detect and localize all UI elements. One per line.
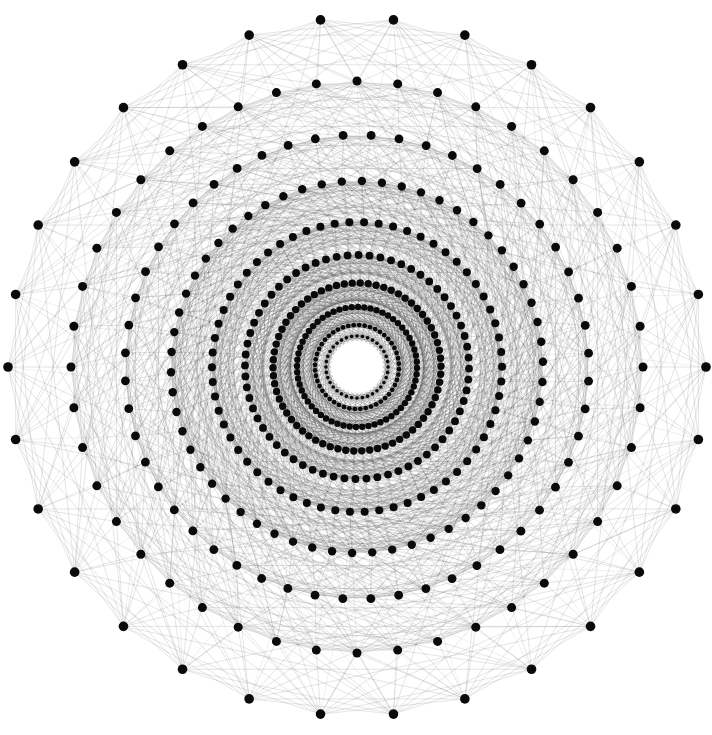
graph-node (415, 421, 422, 428)
graph-node (349, 279, 356, 286)
graph-node (507, 122, 516, 131)
graph-node (417, 493, 425, 501)
graph-node (540, 146, 549, 155)
graph-node (340, 338, 344, 342)
graph-node (270, 372, 277, 379)
graph-node (243, 269, 251, 277)
graph-node (627, 282, 636, 291)
graph-node (328, 418, 334, 424)
graph-node (271, 380, 278, 387)
graph-node (447, 302, 455, 310)
graph-node (314, 373, 319, 378)
graph-node (498, 246, 506, 254)
graph-node (536, 398, 544, 406)
graph-node (312, 646, 321, 655)
graph-node (346, 508, 354, 516)
graph-node (277, 486, 285, 494)
graph-node (325, 284, 332, 291)
graph-node (498, 363, 506, 371)
graph-node (377, 419, 383, 425)
graph-node (373, 327, 378, 332)
graph-node (456, 407, 464, 415)
graph-node (319, 440, 326, 447)
graph-node (428, 324, 435, 331)
graph-node (234, 102, 243, 111)
graph-node (333, 282, 340, 289)
graph-node (226, 293, 234, 301)
graph-node (531, 417, 539, 425)
graph-node (298, 185, 306, 193)
graph-node (353, 424, 359, 430)
graph-node (167, 348, 175, 356)
graph-node (469, 218, 477, 226)
graph-node (408, 299, 415, 306)
graph-node (613, 244, 622, 253)
graph-node (253, 520, 261, 528)
graph-node (527, 299, 535, 307)
graph-node (349, 304, 355, 310)
graph-node (336, 327, 341, 332)
graph-node (412, 377, 418, 383)
graph-node (442, 248, 450, 256)
graph-node (322, 255, 330, 263)
graph-node (136, 175, 145, 184)
graph-node (209, 545, 218, 554)
graph-node (371, 392, 375, 396)
graph-node (367, 305, 373, 311)
graph-node (395, 467, 403, 475)
graph-node (379, 309, 385, 315)
graph-node (345, 336, 349, 340)
graph-node (258, 151, 267, 160)
graph-node (124, 321, 133, 330)
graph-node (540, 579, 549, 588)
graph-node (437, 371, 444, 378)
graph-node (340, 422, 346, 428)
graph-node (390, 503, 398, 511)
graph-node (165, 579, 174, 588)
graph-node (208, 479, 216, 487)
graph-node (384, 376, 388, 380)
graph-node (388, 545, 396, 553)
graph-node (378, 399, 383, 404)
graph-node (426, 534, 434, 542)
graph-node (355, 334, 359, 338)
graph-node (375, 341, 379, 345)
graph-node (396, 361, 401, 366)
graph-node (210, 180, 219, 189)
graph-node (119, 622, 129, 632)
graph-node (593, 208, 602, 217)
graph-node (396, 356, 401, 361)
graph-node (288, 416, 295, 423)
graph-node (497, 348, 505, 356)
graph-node (436, 347, 443, 354)
graph-node (202, 254, 210, 262)
graph-node (270, 356, 277, 363)
graph-node (249, 405, 257, 413)
graph-node (69, 322, 78, 331)
graph-node (338, 594, 347, 603)
graph-node (581, 405, 590, 414)
graph-node (353, 77, 362, 86)
graph-node (316, 15, 326, 25)
graph-node (293, 422, 300, 429)
graph-node (517, 527, 526, 536)
graph-node (694, 290, 704, 300)
graph-node (383, 396, 388, 401)
graph-node (276, 395, 283, 402)
graph-node (317, 384, 322, 389)
graph-node (242, 351, 250, 359)
graph-node (373, 473, 381, 481)
graph-node (386, 371, 390, 375)
graph-node (272, 637, 281, 646)
graph-node (382, 381, 386, 385)
graph-node (465, 354, 473, 362)
graph-node (586, 622, 596, 632)
graph-node (367, 131, 376, 140)
graph-node (209, 378, 217, 386)
graph-node (375, 220, 383, 228)
graph-node (463, 386, 471, 394)
graph-node (169, 388, 177, 396)
graph-node (119, 103, 129, 113)
graph-node (328, 381, 332, 385)
graph-node (386, 337, 391, 342)
